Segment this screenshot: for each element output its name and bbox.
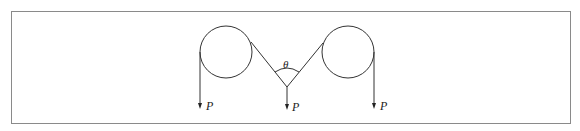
center-load-label: P	[291, 100, 300, 114]
pulley-diagram: θ P P P	[0, 0, 580, 131]
left-pulley	[200, 26, 252, 78]
angle-label: θ	[283, 58, 289, 70]
v-rope-left	[251, 42, 287, 87]
left-arrow-icon	[198, 103, 202, 109]
center-arrow-icon	[285, 104, 289, 110]
left-load-label: P	[205, 99, 214, 113]
right-arrow-icon	[372, 103, 376, 109]
right-load-label: P	[379, 99, 388, 113]
right-pulley	[322, 26, 374, 78]
v-rope-right	[287, 43, 323, 87]
